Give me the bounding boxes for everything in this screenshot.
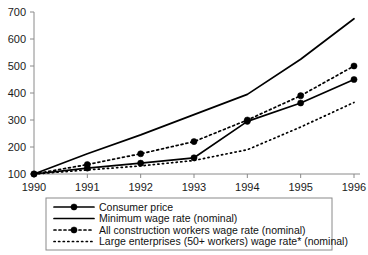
x-tick-label-1991: 1991	[75, 181, 99, 193]
y-tick-label-100: 100	[8, 168, 26, 180]
data-point-2-6	[351, 63, 357, 69]
series-line-3	[34, 102, 354, 174]
data-point-2-1	[84, 161, 90, 167]
legend-label-0: Consumer price	[99, 201, 173, 213]
legend-marker-2	[71, 227, 77, 233]
x-tick-label-1995: 1995	[288, 181, 312, 193]
y-tick-label-600: 600	[8, 33, 26, 45]
y-tick-label-400: 400	[8, 87, 26, 99]
legend-label-1: Minimum wage rate (nominal)	[99, 212, 237, 224]
chart-legend: Consumer priceMinimum wage rate (nominal…	[46, 198, 348, 250]
legend-label-2: All construction workers wage rate (nomi…	[99, 224, 306, 236]
y-tick-label-300: 300	[8, 114, 26, 126]
data-point-2-4	[244, 117, 250, 123]
y-tick-label-700: 700	[8, 6, 26, 18]
legend-marker-0	[71, 204, 77, 210]
data-point-2-2	[138, 151, 144, 157]
x-tick-label-1992: 1992	[128, 181, 152, 193]
x-tick-label-1990: 1990	[22, 181, 46, 193]
legend-label-3: Large enterprises (50+ workers) wage rat…	[99, 235, 348, 247]
y-axis: 700600500400300200100	[8, 6, 34, 180]
data-point-0-6	[351, 76, 357, 82]
y-tick-label-200: 200	[8, 141, 26, 153]
x-tick-label-1994: 1994	[235, 181, 259, 193]
x-axis: 1990199119921993199419951996	[22, 174, 366, 193]
data-point-2-3	[191, 139, 197, 145]
y-tick-label-500: 500	[8, 60, 26, 72]
series-line-1	[34, 19, 354, 174]
series-layer	[31, 19, 357, 177]
data-point-0-5	[298, 100, 304, 106]
chart-canvas: 700600500400300200100 199019911992199319…	[0, 0, 368, 255]
line-chart: 700600500400300200100 199019911992199319…	[0, 0, 368, 255]
data-point-2-5	[298, 93, 304, 99]
x-tick-label-1993: 1993	[182, 181, 206, 193]
x-tick-label-1996: 1996	[342, 181, 366, 193]
